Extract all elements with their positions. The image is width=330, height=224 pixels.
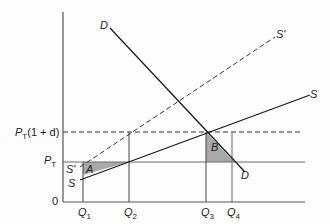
supply-curve xyxy=(80,95,310,180)
quantity-label-q1-main: Q xyxy=(78,206,87,218)
origin-label: 0 xyxy=(52,196,58,207)
quantity-label-q4: Q4 xyxy=(227,207,240,221)
demand-label-bottom: D xyxy=(241,170,249,181)
demand-label-top: D xyxy=(100,20,108,31)
price-label-pt-sub: T xyxy=(51,160,56,169)
price-label-pt-1d: PT(1 + d) xyxy=(15,127,59,141)
supply-shifted-label-left: S' xyxy=(66,164,75,175)
quantity-label-q4-sub: 4 xyxy=(236,212,240,221)
area-a-label: A xyxy=(86,164,93,175)
price-label-pt-1d-suffix: (1 + d) xyxy=(27,126,59,138)
supply-label-right: S xyxy=(310,89,317,100)
supply-demand-diagram: D D S' S S' S A B PT(1 + d) PT 0 Q1 Q2 Q… xyxy=(0,0,330,224)
demand-curve xyxy=(110,28,245,172)
quantity-label-q4-main: Q xyxy=(227,206,236,218)
quantity-label-q1: Q1 xyxy=(78,207,91,221)
area-b-label: B xyxy=(211,142,218,153)
supply-shifted-curve xyxy=(80,37,275,167)
price-label-pt: PT xyxy=(44,155,56,169)
quantity-label-q3: Q3 xyxy=(201,207,214,221)
quantity-label-q2-sub: 2 xyxy=(133,212,137,221)
supply-shifted-label-right: S' xyxy=(276,29,285,40)
supply-label-left: S xyxy=(68,178,75,189)
quantity-label-q2-main: Q xyxy=(124,206,133,218)
quantity-label-q1-sub: 1 xyxy=(87,212,91,221)
quantity-label-q3-main: Q xyxy=(201,206,210,218)
quantity-label-q2: Q2 xyxy=(124,207,137,221)
quantity-label-q3-sub: 3 xyxy=(210,212,214,221)
